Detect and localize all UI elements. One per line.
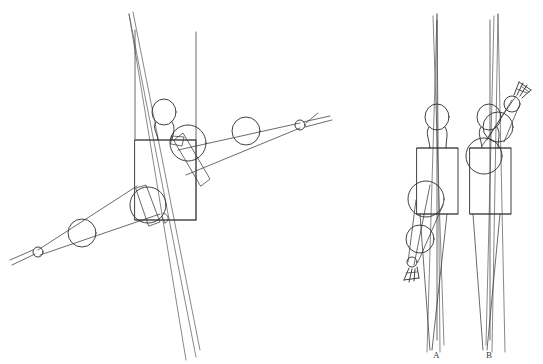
left-panel-figure <box>10 12 332 360</box>
figure-b-label: B <box>486 350 493 360</box>
right-panel-figure-a: A <box>404 14 458 360</box>
figure-a-label: A <box>433 350 440 360</box>
figure-b-construction-axis <box>486 14 505 352</box>
figure-a-construction-axis <box>427 14 444 352</box>
figure-b-hand <box>514 82 531 98</box>
left-upper-arm <box>170 113 332 186</box>
diagram-root: A <box>0 0 543 364</box>
left-construction-axis <box>129 12 200 360</box>
right-panel-figure-b: B <box>466 14 531 360</box>
figure-diagram-canvas: A <box>0 0 543 364</box>
figure-b-head <box>477 104 501 148</box>
left-lower-arm <box>10 185 168 265</box>
figure-a-hand <box>404 267 419 282</box>
figure-b-arm-raised <box>482 82 531 146</box>
